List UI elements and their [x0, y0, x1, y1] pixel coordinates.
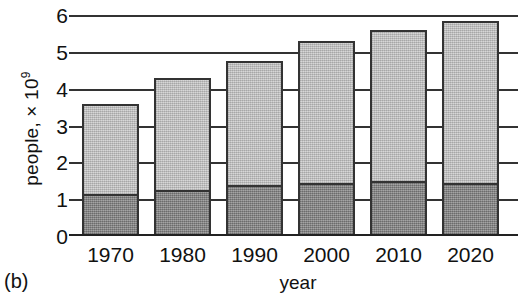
- y-tick-label-0: 0: [56, 226, 68, 247]
- bar-segment-lower-2020: [442, 183, 499, 236]
- x-tick-label-1990: 1990: [226, 243, 283, 267]
- plot-area: 0123456 197019801990200020102020: [78, 8, 518, 236]
- y-tick-mark-5: [69, 52, 80, 54]
- bar-segment-upper-2020: [442, 21, 499, 183]
- bar-1990: 1990: [226, 61, 283, 236]
- y-tick-label-5: 5: [56, 42, 68, 63]
- y-axis-title: people, × 109: [19, 14, 42, 244]
- y-axis-title-exponent: 9: [19, 71, 33, 78]
- x-tick-label-2000: 2000: [298, 243, 355, 267]
- bar-segment-upper-2010: [370, 30, 427, 181]
- bar-segment-upper-1980: [154, 78, 211, 190]
- y-tick-mark-3: [69, 126, 80, 128]
- x-tick-label-1970: 1970: [82, 243, 139, 267]
- x-tick-label-2020: 2020: [442, 243, 499, 267]
- figure-panel-b: people, × 109 0123456 197019801990200020…: [0, 0, 524, 308]
- bar-2010: 2010: [370, 30, 427, 236]
- y-tick-mark-6: [69, 15, 80, 17]
- gridline-6: [78, 15, 518, 17]
- y-tick-label-1: 1: [56, 189, 68, 210]
- bar-1970: 1970: [82, 104, 139, 236]
- bar-segment-lower-1990: [226, 185, 283, 236]
- y-tick-label-2: 2: [56, 152, 68, 173]
- x-axis-line: [69, 234, 518, 236]
- bar-2000: 2000: [298, 41, 355, 236]
- y-tick-mark-1: [69, 199, 80, 201]
- y-tick-label-6: 6: [56, 5, 68, 26]
- panel-label: (b): [4, 270, 28, 293]
- bar-segment-lower-1970: [82, 194, 139, 236]
- bar-segment-upper-2000: [298, 41, 355, 183]
- bar-segment-lower-2000: [298, 183, 355, 236]
- x-tick-label-1980: 1980: [154, 243, 211, 267]
- y-tick-mark-2: [69, 162, 80, 164]
- bar-segment-upper-1970: [82, 104, 139, 194]
- bar-segment-lower-2010: [370, 181, 427, 236]
- bar-2020: 2020: [442, 21, 499, 236]
- y-axis-title-text: people, × 10: [21, 78, 42, 186]
- x-tick-label-2010: 2010: [370, 243, 427, 267]
- bar-segment-lower-1980: [154, 190, 211, 236]
- y-tick-mark-4: [69, 89, 80, 91]
- y-tick-label-4: 4: [56, 78, 68, 99]
- bar-1980: 1980: [154, 78, 211, 236]
- y-tick-label-3: 3: [56, 115, 68, 136]
- bar-segment-upper-1990: [226, 61, 283, 184]
- x-axis-title: year: [78, 272, 518, 294]
